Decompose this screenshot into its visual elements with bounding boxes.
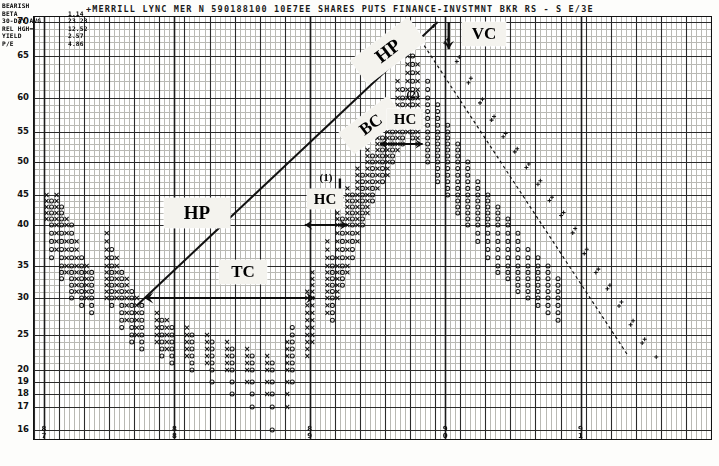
stat-line: REL HGH=12.52 (2, 25, 88, 33)
y-axis-tick: 20 (0, 364, 29, 374)
stat-label: YIELD (2, 32, 68, 40)
stat-label: 30-DAY AVG (2, 17, 68, 25)
annotation-vc: VC (462, 22, 506, 46)
y-axis: 706560555045403530252019181716 (0, 0, 31, 466)
annotation-tc: TC (219, 260, 267, 284)
stat-value: 1.14 (68, 10, 84, 18)
stat-line: BETA1.14 (2, 10, 88, 18)
stat-line: 30-DAY AVG23.23 (2, 17, 88, 25)
x-axis-tick: 88 (172, 426, 177, 440)
stat-label: BEARISH (2, 2, 29, 10)
x-axis-tick: 89 (307, 426, 312, 440)
x-axis-tick: 90 (443, 426, 448, 440)
annotation-marker-2: (2) (400, 86, 426, 102)
x-axis-tick: 91 (578, 426, 583, 440)
y-axis-tick: 17 (0, 401, 29, 411)
y-axis-tick: 19 (0, 376, 29, 386)
annotation-hp-left: HP (164, 198, 230, 228)
stat-value: 12.52 (68, 25, 88, 33)
stat-value: 4.86 (68, 40, 84, 48)
annotation-hc-lower: HC (307, 189, 343, 209)
y-axis-tick: 18 (0, 388, 29, 398)
y-axis-tick: 40 (0, 219, 29, 229)
y-axis-tick: 45 (0, 189, 29, 199)
stat-label: BETA (2, 10, 68, 18)
y-axis-tick: 30 (0, 292, 29, 302)
y-axis-tick: 25 (0, 329, 29, 339)
annotation-marker-1: (1) (313, 169, 339, 185)
y-axis-tick: 35 (0, 260, 29, 270)
pnf-chart-screenshot: +MERRILL LYNC MER N 590188100 10E7EE SHA… (0, 0, 719, 466)
chart-title: +MERRILL LYNC MER N 590188100 10E7EE SHA… (86, 3, 594, 14)
stat-line: BEARISH (2, 2, 88, 10)
y-axis-tick: 60 (0, 92, 29, 102)
y-axis-tick: 50 (0, 156, 29, 166)
stat-value: 23.23 (68, 17, 88, 25)
stat-line: YIELD2.57 (2, 32, 88, 40)
x-axis-tick: 87 (42, 426, 47, 440)
x-axis: 8788899091 (33, 438, 710, 464)
annotation-hc-upper: HC (387, 109, 423, 129)
stats-info-box: BEARISHBETA1.1430-DAY AVG23.23REL HGH=12… (2, 2, 88, 48)
stat-label: P/E (2, 40, 68, 48)
y-axis-tick: 55 (0, 126, 29, 136)
y-axis-tick: 65 (0, 50, 29, 60)
stat-line: P/E4.86 (2, 40, 88, 48)
y-axis-tick: 16 (0, 424, 29, 434)
stat-value: 2.57 (68, 32, 84, 40)
stat-label: REL HGH= (2, 25, 68, 33)
